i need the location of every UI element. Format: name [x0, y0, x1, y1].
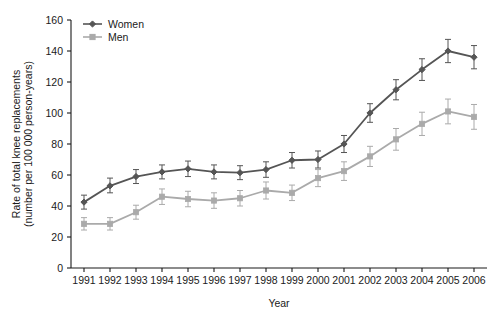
- data-point: [315, 176, 320, 181]
- x-tick-label: 2001: [332, 274, 356, 286]
- y-tick-label: 0: [57, 262, 63, 274]
- x-tick-label: 2006: [462, 274, 486, 286]
- chart-container: 0204060801001201401601991199219931994199…: [0, 0, 503, 324]
- data-point: [471, 114, 476, 119]
- data-point: [159, 169, 165, 175]
- data-point: [133, 173, 139, 179]
- x-tick-label: 1992: [98, 274, 122, 286]
- x-tick-label: 2003: [384, 274, 408, 286]
- y-tick-label: 100: [45, 107, 63, 119]
- data-point: [133, 210, 138, 215]
- data-point: [81, 221, 86, 226]
- data-point: [185, 166, 191, 172]
- data-point: [393, 137, 398, 142]
- data-point: [445, 109, 450, 114]
- y-tick-label: 120: [45, 76, 63, 88]
- y-axis-title: Rate of total knee replacements(number p…: [10, 61, 34, 227]
- series-line: [84, 51, 474, 202]
- y-tick-label: 60: [51, 169, 63, 181]
- data-point: [211, 198, 216, 203]
- legend-marker: [90, 34, 95, 39]
- y-tick-label: 40: [51, 200, 63, 212]
- data-point: [211, 169, 217, 175]
- x-tick-label: 2004: [410, 274, 434, 286]
- data-point: [107, 221, 112, 226]
- y-tick-label: 140: [45, 45, 63, 57]
- legend-label: Women: [108, 18, 144, 30]
- data-point: [159, 194, 164, 199]
- line-chart: 0204060801001201401601991199219931994199…: [0, 0, 503, 324]
- data-point: [419, 121, 424, 126]
- legend-marker: [89, 21, 95, 27]
- data-point: [289, 190, 294, 195]
- series-women: [81, 39, 477, 209]
- legend-item-men[interactable]: Men: [83, 31, 129, 43]
- data-point: [263, 166, 269, 172]
- data-point: [341, 169, 346, 174]
- x-tick-label: 2000: [306, 274, 330, 286]
- legend-label: Men: [108, 31, 129, 43]
- data-point: [471, 54, 477, 60]
- data-point: [237, 170, 243, 176]
- x-axis-title: Year: [268, 297, 290, 309]
- x-tick-label: 2005: [436, 274, 460, 286]
- chart-legend: WomenMen: [83, 18, 144, 43]
- data-point: [237, 196, 242, 201]
- data-point: [367, 154, 372, 159]
- series-line: [84, 111, 474, 223]
- y-tick-label: 160: [45, 14, 63, 26]
- y-axis-title-line1: Rate of total knee replacements: [10, 70, 22, 218]
- x-tick-label: 1996: [202, 274, 226, 286]
- y-axis-title-line2: (number per 100 000 person-years): [22, 61, 34, 227]
- x-tick-label: 1993: [124, 274, 148, 286]
- x-tick-label: 1999: [280, 274, 304, 286]
- x-tick-label: 1991: [72, 274, 96, 286]
- x-tick-label: 1997: [228, 274, 252, 286]
- x-tick-label: 1995: [176, 274, 200, 286]
- y-tick-label: 20: [51, 231, 63, 243]
- x-tick-label: 1998: [254, 274, 278, 286]
- data-point: [263, 188, 268, 193]
- legend-item-women[interactable]: Women: [83, 18, 144, 30]
- y-tick-label: 80: [51, 138, 63, 150]
- data-point: [289, 157, 295, 163]
- data-point: [185, 196, 190, 201]
- x-tick-label: 1994: [150, 274, 174, 286]
- x-tick-label: 2002: [358, 274, 382, 286]
